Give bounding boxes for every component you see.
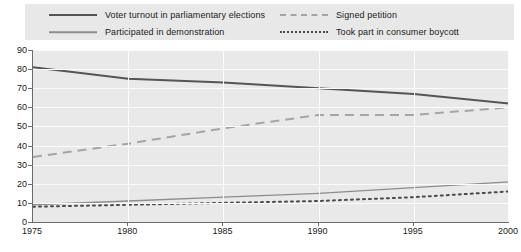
line-sample-dashed-icon [278,9,330,21]
line-sample-dotted-icon [278,26,330,38]
gridline-vertical [414,50,415,222]
legend-item-consumer-boycott: Took part in consumer boycott [278,25,459,39]
x-axis-tick-label: 1985 [212,226,232,236]
series-line-dotted [33,191,509,206]
series-line-solid-thick [33,67,509,103]
y-axis-tick [28,203,32,204]
legend-row-3: Signed petition [278,8,397,22]
y-axis-tick-label: 30 [3,160,27,170]
gridline-horizontal [33,126,509,127]
y-axis-tick-label: 40 [3,141,27,151]
y-axis-tick-label: 70 [3,83,27,93]
x-axis-tick-label: 1980 [117,226,137,236]
legend-label-signed-petition: Signed petition [336,10,397,20]
gridline-horizontal [33,184,509,185]
legend-label-consumer-boycott: Took part in consumer boycott [336,27,459,37]
gridline-horizontal [33,203,509,204]
y-axis-tick [28,126,32,127]
series-line-dashed [33,107,509,157]
y-axis-tick [28,165,32,166]
legend-row-1: Voter turnout in parliamentary elections [47,8,265,22]
x-axis-tick-label: 2000 [498,226,518,236]
x-axis-tick [413,222,414,226]
gridline-horizontal [33,165,509,166]
x-axis-tick [127,222,128,226]
y-axis-tick-label: 50 [3,121,27,131]
y-axis-tick-label: 10 [3,198,27,208]
gridline-vertical [128,50,129,222]
x-axis-tick-label: 1995 [403,226,423,236]
gridline-vertical [319,50,320,222]
plot-area [32,50,509,223]
gridline-horizontal [33,50,509,51]
y-axis-tick-label: 80 [3,64,27,74]
line-sample-solid-thin-icon [47,26,99,38]
y-axis-tick-label: 20 [3,179,27,189]
legend-label-voter-turnout: Voter turnout in parliamentary elections [105,10,265,20]
gridline-horizontal [33,107,509,108]
y-axis-tick [28,184,32,185]
y-axis-tick-label: 90 [3,45,27,55]
gridline-horizontal [33,69,509,70]
gridline-horizontal [33,88,509,89]
series-line-solid-thin [33,182,509,205]
y-axis-tick [28,69,32,70]
x-axis: 197519801985199019952000 [0,226,521,240]
y-axis-tick [28,222,32,223]
legend-row-2: Participated in demonstration [47,25,224,39]
x-axis-tick [318,222,319,226]
y-axis-tick [28,50,32,51]
legend-item-demonstration: Participated in demonstration [47,25,224,39]
legend-item-signed-petition: Signed petition [278,8,397,22]
y-axis: 9080706050403020100 [0,50,27,222]
gridline-horizontal [33,146,509,147]
y-axis-tick [28,88,32,89]
x-axis-tick-label: 1975 [22,226,42,236]
legend-label-demonstration: Participated in demonstration [105,27,224,37]
legend-row-4: Took part in consumer boycott [278,25,459,39]
x-axis-tick-label: 1990 [308,226,328,236]
y-axis-tick [28,146,32,147]
chart-legend: Voter turnout in parliamentary elections… [25,4,514,40]
gridline-vertical [508,50,509,222]
y-axis-tick-label: 60 [3,102,27,112]
gridline-vertical [223,50,224,222]
chart-figure: Voter turnout in parliamentary elections… [0,0,521,252]
line-sample-solid-thick-icon [47,9,99,21]
y-axis-tick [28,107,32,108]
chart-lines [33,50,509,222]
legend-item-voter-turnout: Voter turnout in parliamentary elections [47,8,265,22]
x-axis-tick [222,222,223,226]
